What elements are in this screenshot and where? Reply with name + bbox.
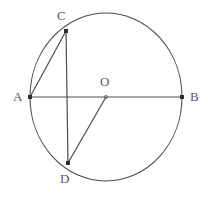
point-marker-a	[28, 95, 32, 99]
vertex-label-c: C	[57, 9, 66, 22]
vertex-label-o: O	[100, 75, 109, 88]
vertex-label-b: B	[190, 90, 199, 103]
segment-od	[68, 97, 106, 163]
vertex-label-a: A	[13, 90, 22, 103]
point-marker-b	[180, 95, 184, 99]
geometry-canvas	[0, 0, 208, 201]
point-marker-c	[64, 29, 68, 33]
geometry-figure: A B C D O	[0, 0, 208, 201]
vertex-label-d: D	[60, 172, 69, 185]
point-marker-d	[66, 161, 70, 165]
segment-ac	[30, 31, 66, 97]
